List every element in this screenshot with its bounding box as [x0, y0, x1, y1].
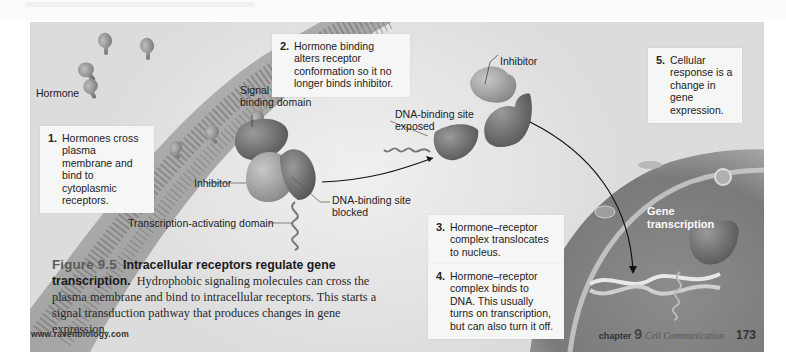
step-1-callout: 1. Hormones cross plasma membrane and bi…	[40, 126, 154, 213]
step-3-callout: 3. Hormone–receptor complex translocates…	[428, 215, 564, 265]
step-number: 5.	[656, 54, 665, 66]
label-transcription-activating-domain: Transcription-activating domain	[128, 217, 274, 229]
label-inhibitor-left: Inhibitor	[194, 177, 231, 189]
page-top-margin	[0, 0, 786, 20]
label-dna-binding-site-exposed: DNA-binding site exposed	[395, 108, 475, 133]
figure-caption: Figure 9.5 Intracellular receptors regul…	[52, 257, 382, 337]
label-dna-binding-site-blocked: DNA-binding site blocked	[332, 194, 412, 219]
step-number: 3.	[436, 221, 445, 233]
figure-number: Figure 9.5	[52, 257, 117, 272]
chapter-number: 9	[634, 326, 642, 342]
step-number: 2.	[280, 40, 289, 52]
step-text: Cellular response is a change in gene ex…	[670, 54, 732, 116]
chapter-title: Cell Communication	[645, 331, 724, 341]
step-4-callout: 4. Hormone–receptor complex binds to DNA…	[428, 264, 564, 339]
step-number: 4.	[436, 270, 445, 282]
step-text: Hormones cross plasma membrane and bind …	[62, 132, 138, 206]
step-text: Hormone binding alters receptor conforma…	[294, 40, 393, 89]
running-footer: chapter9Cell Communication173	[599, 326, 756, 342]
step-number: 1.	[48, 132, 57, 144]
label-hormone: Hormone	[36, 87, 79, 99]
step-text: Hormone–receptor complex binds to DNA. T…	[450, 270, 553, 332]
bleed-through	[25, 2, 255, 7]
chapter-word: chapter	[599, 331, 632, 341]
step-5-callout: 5. Cellular response is a change in gene…	[648, 48, 742, 123]
label-gene-transcription: Gene transcription	[647, 205, 717, 231]
step-text: Hormone–receptor complex translocates to…	[450, 221, 549, 258]
step-2-callout: 2. Hormone binding alters receptor confo…	[272, 34, 410, 97]
label-inhibitor-right: Inhibitor	[500, 55, 537, 67]
website-link[interactable]: www.ravenbiology.com	[31, 329, 129, 339]
page-number: 173	[736, 328, 756, 342]
